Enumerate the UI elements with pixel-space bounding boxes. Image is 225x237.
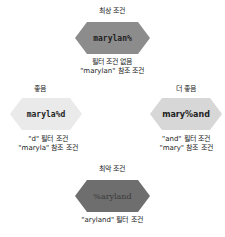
good-case-hexagon: maryla%d [10, 98, 82, 130]
better-case-title: 더 좋음 [136, 83, 225, 93]
best-case-caption-1: 필터 조건 없음 [52, 58, 172, 67]
good-case-caption-2: "maryla" 참조 조건 [0, 144, 108, 153]
worst-case-caption-1: "aryland" 필터 조건 [52, 216, 172, 225]
best-case-captions: 필터 조건 없음 "marylan" 참조 조건 [52, 58, 172, 76]
worst-case-pattern: %aryland [75, 180, 150, 212]
better-case-hexagon: mary%and [150, 98, 222, 130]
best-case-caption-2: "marylan" 참조 조건 [52, 67, 172, 76]
better-case-caption-1: "and" 필터 조건 [126, 135, 225, 144]
worst-case-title: 최악 조건 [62, 163, 162, 173]
worst-case-captions: "aryland" 필터 조건 [52, 216, 172, 225]
better-case-caption-2: "mary" 참조 조건 [126, 144, 225, 153]
better-case-captions: "and" 필터 조건 "mary" 참조 조건 [126, 135, 225, 153]
good-case-caption-1: "d" 필터 조건 [0, 135, 108, 144]
best-case-title: 최상 조건 [62, 5, 162, 15]
best-case-hexagon: marylan% [75, 22, 150, 54]
better-case-pattern: mary%and [150, 98, 222, 130]
good-case-title: 좋음 [0, 83, 90, 93]
best-case-pattern: marylan% [75, 22, 150, 54]
good-case-pattern: maryla%d [10, 98, 82, 130]
good-case-captions: "d" 필터 조건 "maryla" 참조 조건 [0, 135, 108, 153]
worst-case-hexagon: %aryland [75, 180, 150, 212]
